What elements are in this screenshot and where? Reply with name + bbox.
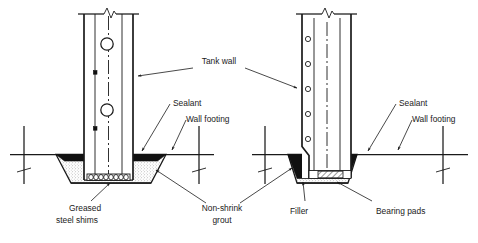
label-sealant-left: Sealant [173,98,202,108]
engineering-figure: Tank wall Sealant Wall footing Sealant W… [0,0,478,243]
tendon-circle-left-upper [101,38,113,50]
right-detail-group [252,8,468,184]
label-tank-wall: Tank wall [202,56,237,66]
label-bearing-pads: Bearing pads [376,206,425,216]
greased-steel-shims [87,174,130,181]
leader-tank-wall-left [138,68,193,76]
tendon-circle-left-lower [101,104,113,116]
leader-tank-wall-right [245,68,297,88]
label-wall-footing-right: Wall footing [412,114,456,124]
leader-non-shrink-grout-right [240,168,292,203]
diagram-canvas: Tank wall Sealant Wall footing Sealant W… [0,0,478,243]
leader-sealant-right [368,104,396,151]
anchor-square-left-upper [93,71,97,75]
leader-bearing-pads [337,182,372,201]
anchor-square-left-lower [93,127,97,131]
label-non-shrink-line2: grout [212,215,232,225]
leader-sealant-left [142,104,170,151]
label-greased-line1: Greased [69,203,101,213]
label-wall-footing-left: Wall footing [186,114,230,124]
label-non-shrink-line1: Non-shrink [202,203,243,213]
leader-filler [303,182,305,201]
leader-greased-steel-shims [91,183,110,201]
bearing-pads [309,171,351,179]
label-filler: Filler [290,206,308,216]
leader-wall-footing-left [172,120,186,150]
label-greased-line2: steel shims [56,215,98,225]
left-detail-group [10,8,214,184]
label-sealant-right: Sealant [399,98,428,108]
leader-wall-footing-right [398,120,412,150]
